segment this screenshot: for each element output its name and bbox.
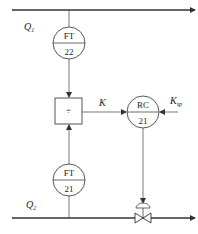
ft21-tag: FT (64, 168, 75, 178)
control-valve-icon[interactable] (135, 203, 151, 223)
instrument-rc21[interactable]: RC 21 (127, 96, 159, 128)
divide-icon: ÷ (66, 106, 71, 116)
ft22-number: 22 (65, 47, 74, 57)
setpoint-label: Ksp (169, 95, 182, 107)
stream-label-q1: Q1 (24, 21, 34, 33)
rc21-number: 21 (139, 116, 148, 126)
ft22-tag: FT (64, 31, 75, 41)
instrument-ft22[interactable]: FT 22 (53, 27, 85, 59)
rc21-tag: RC (137, 100, 149, 110)
stream-label-q2: Q2 (26, 199, 36, 211)
instrument-ft21[interactable]: FT 21 (53, 164, 85, 196)
ft21-number: 21 (65, 184, 74, 194)
ratio-control-diagram: Q1 FT 22 ÷ K RC 21 Ksp FT 21 Q2 (0, 0, 198, 234)
divider-block[interactable]: ÷ (55, 98, 82, 124)
ratio-label-k: K (98, 97, 107, 108)
